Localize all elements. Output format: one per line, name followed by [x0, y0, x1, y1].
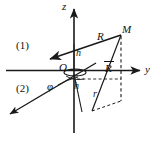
vector-label-R-upper: R — [97, 31, 104, 42]
angle-label-phi: φ — [47, 81, 53, 92]
vector-label-R-bar: R — [105, 63, 112, 74]
axis-label-z: z — [62, 1, 66, 12]
geometry-figure: z y O (1) (2) R M R h h r φ — [0, 0, 157, 141]
origin-label-O: O — [59, 62, 67, 73]
height-label-h-lower: h — [74, 81, 79, 91]
diagram-canvas — [0, 0, 157, 141]
axis-label-y: y — [145, 64, 150, 75]
region-label-1: (1) — [16, 40, 29, 51]
radius-r-line — [92, 101, 121, 111]
point-label-M: M — [122, 24, 131, 35]
vector-R-upper — [50, 35, 121, 59]
height-label-h-upper: h — [76, 48, 81, 58]
region-label-2: (2) — [16, 83, 29, 94]
radius-label-r: r — [93, 89, 97, 99]
